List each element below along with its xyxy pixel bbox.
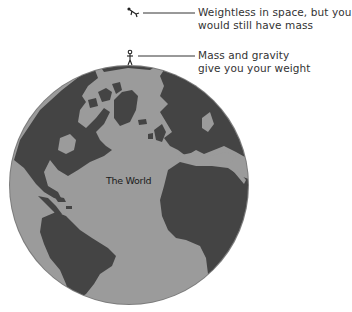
globe-label: The World xyxy=(106,175,151,186)
europe xyxy=(160,64,250,160)
iceland xyxy=(138,119,147,125)
annotation-space-line2: would still have mass xyxy=(198,19,352,32)
standing-person-icon xyxy=(127,50,133,65)
annotation-earth-line2: give you your weight xyxy=(198,62,311,75)
annotation-space: Weightless in space, but you would still… xyxy=(198,6,352,32)
annotation-earth: Mass and gravity give you your weight xyxy=(198,49,311,75)
floating-person-icon xyxy=(127,7,139,17)
annotation-space-line1: Weightless in space, but you xyxy=(198,6,352,19)
annotation-earth-line1: Mass and gravity xyxy=(198,49,311,62)
